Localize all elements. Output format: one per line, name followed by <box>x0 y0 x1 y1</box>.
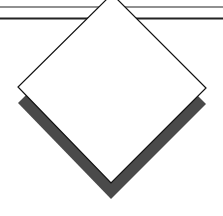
diamond-graphic <box>0 0 223 216</box>
diamond-shape <box>18 0 206 183</box>
diamond-figure <box>0 0 223 216</box>
